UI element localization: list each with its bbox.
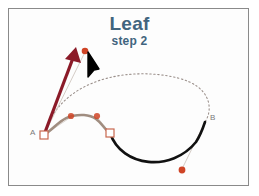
control-point-curve-left[interactable] (68, 113, 74, 119)
screenshot-root: Leaf step 2 A B (0, 0, 259, 196)
step-subtitle: step 2 (0, 34, 259, 48)
control-point-bottom[interactable] (179, 167, 186, 174)
highlight-curve-path (44, 115, 110, 135)
anchor-point-mid[interactable] (106, 129, 114, 137)
anchor-label-b: B (210, 113, 215, 122)
mouse-cursor-icon (88, 52, 99, 77)
anchor-point-a[interactable] (40, 131, 48, 139)
solid-curve-path (110, 122, 205, 162)
anchor-label-a: A (30, 128, 35, 137)
page-title: Leaf (0, 13, 259, 34)
control-point-curve-right[interactable] (94, 113, 100, 119)
preview-dotted-path (44, 74, 209, 135)
